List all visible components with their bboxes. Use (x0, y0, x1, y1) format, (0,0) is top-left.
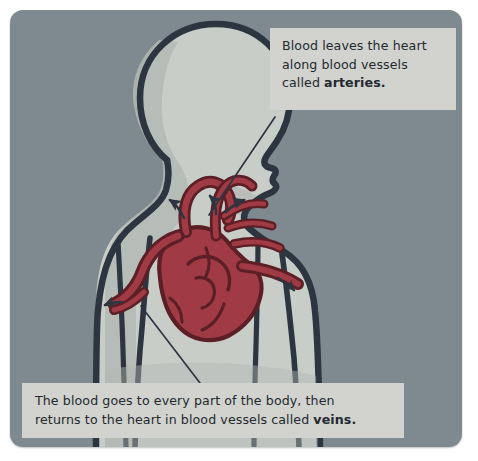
artery-line-2: along blood vessels (282, 56, 445, 75)
vein-line-1: The blood goes to every part of the body… (35, 392, 393, 411)
vein-callout: The blood goes to every part of the body… (22, 383, 404, 438)
figure-canvas: Blood leaves the heart along blood vesse… (0, 0, 478, 461)
vein-bold-term: veins. (313, 412, 356, 427)
artery-bold-term: arteries. (324, 75, 386, 90)
vein-line-2: returns to the heart in blood vessels ca… (35, 411, 393, 430)
vein-line-2-text: returns to the heart in blood vessels ca… (35, 412, 313, 427)
artery-callout: Blood leaves the heart along blood vesse… (270, 28, 456, 110)
artery-line-1: Blood leaves the heart (282, 37, 445, 56)
artery-line-3: called arteries. (282, 74, 445, 93)
artery-line-3-text: called (282, 75, 324, 90)
